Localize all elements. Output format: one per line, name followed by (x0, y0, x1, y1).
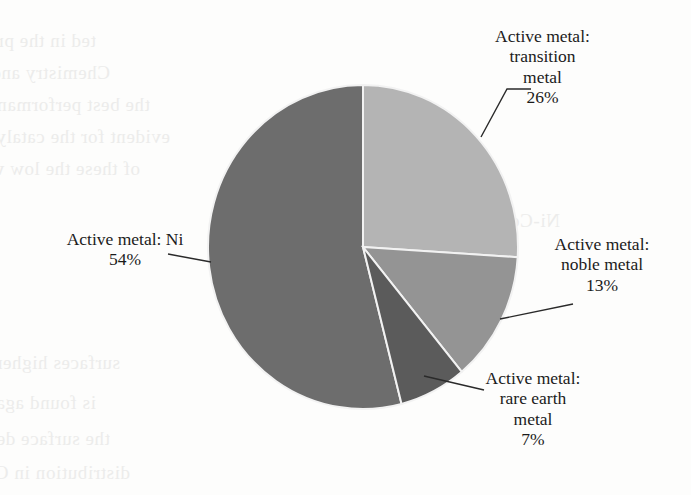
pie-label-line: Active metal: Ni (30, 229, 220, 249)
pie-label-line: Active metal: (527, 234, 677, 254)
pie-label-line: noble metal (527, 254, 677, 274)
pie-label-value: 54% (30, 249, 220, 269)
pie-label-line: transition (455, 46, 630, 66)
pie-label-line: rare earth (458, 388, 608, 408)
pie-label-value: 26% (455, 87, 630, 107)
pie-label-noble-metal: Active metal: noble metal 13% (527, 234, 677, 295)
pie-label-value: 7% (458, 429, 608, 449)
pie-label-rare-earth-metal: Active metal: rare earth metal 7% (458, 368, 608, 449)
pie-label-ni: Active metal: Ni 54% (30, 229, 220, 270)
pie-label-line: metal (455, 67, 630, 87)
pie-label-transition-metal: Active metal: transition metal 26% (455, 26, 630, 107)
pie-label-value: 13% (527, 275, 677, 295)
pie-label-line: Active metal: (458, 368, 608, 388)
pie-label-line: Active metal: (455, 26, 630, 46)
leader-line-noble-metal (500, 304, 573, 319)
pie-chart-page: ted in the preparation of Chemistry and … (0, 0, 691, 495)
pie-label-line: metal (458, 409, 608, 429)
